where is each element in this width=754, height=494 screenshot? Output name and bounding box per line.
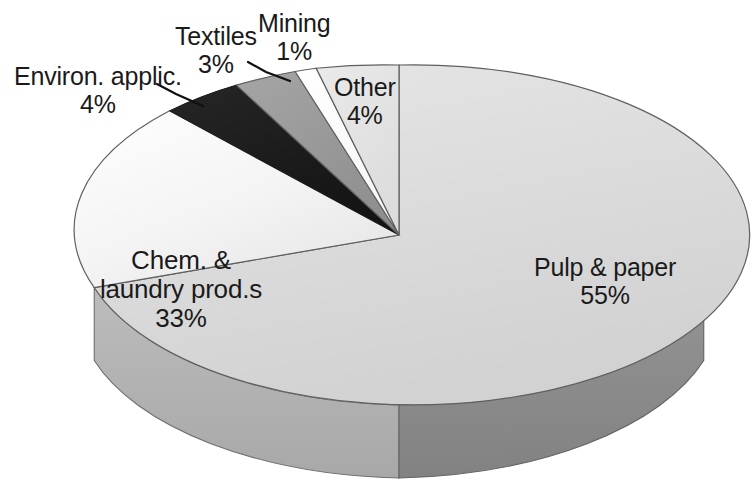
slice-label-textiles: Textiles 3%	[175, 22, 257, 78]
slice-label-chem-laundry-name-line2: laundry prod.s	[100, 275, 262, 304]
slice-label-environ-applic-name: Environ. applic.	[14, 62, 182, 90]
slice-label-pulp-paper-name: Pulp & paper	[534, 253, 676, 281]
slice-label-mining: Mining 1%	[258, 9, 330, 65]
slice-label-mining-name: Mining	[258, 9, 330, 37]
slice-label-other-pct: 4%	[334, 101, 396, 129]
slice-label-chem-laundry-pct: 33%	[100, 304, 262, 333]
slice-label-chem-laundry: Chem. & laundry prod.s 33%	[100, 246, 262, 333]
slice-label-environ-applic-pct: 4%	[14, 90, 182, 118]
slice-label-mining-pct: 1%	[258, 37, 330, 65]
slice-label-textiles-name: Textiles	[175, 22, 257, 50]
slice-label-pulp-paper-pct: 55%	[534, 281, 676, 309]
slice-label-other-name: Other	[334, 73, 396, 101]
slice-label-textiles-pct: 3%	[175, 50, 257, 78]
slice-label-chem-laundry-name-line1: Chem. &	[100, 246, 262, 275]
pie-chart-figure: Pulp & paper 55% Chem. & laundry prod.s …	[0, 0, 754, 494]
slice-label-environ-applic: Environ. applic. 4%	[14, 62, 182, 118]
slice-label-pulp-paper: Pulp & paper 55%	[534, 253, 676, 309]
slice-label-other: Other 4%	[334, 73, 396, 129]
